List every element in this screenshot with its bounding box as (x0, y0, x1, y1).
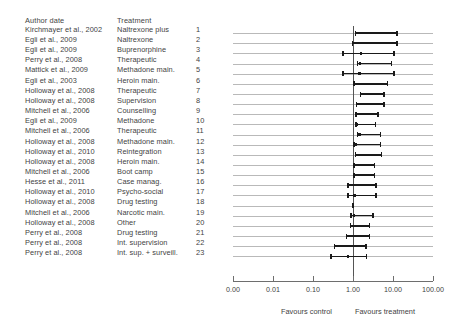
effect-estimate-point (359, 83, 362, 86)
row-index: 14 (196, 158, 208, 166)
row-treatment: Naltrexone (117, 36, 153, 44)
gridline (233, 53, 433, 54)
confidence-interval-cap (374, 173, 376, 178)
row-author: Holloway et al., 2008 (25, 219, 95, 227)
gridline (233, 175, 433, 176)
column-header-author: Author date (25, 16, 64, 25)
effect-estimate-point (353, 214, 356, 217)
axis-tick-label: 100.00 (422, 285, 444, 294)
row-author: Egli et al., 2009 (25, 46, 77, 54)
row-treatment: Other (117, 219, 136, 227)
gridline (233, 206, 433, 207)
row-index: 22 (196, 239, 208, 247)
effect-estimate-point (360, 93, 363, 96)
row-treatment: Therapeutic (117, 127, 157, 135)
gridline (233, 195, 433, 196)
confidence-interval-cap (375, 122, 377, 127)
row-author: Egli et al., 2003 (25, 77, 77, 85)
gridline (233, 104, 433, 105)
confidence-interval-cap (353, 81, 355, 86)
row-index: 9 (196, 107, 208, 115)
confidence-interval-cap (334, 244, 336, 249)
row-author: Egli et al., 2009 (25, 117, 77, 125)
gridline (233, 135, 433, 136)
row-treatment: Buprenorphine (117, 46, 166, 54)
confidence-interval-cap (380, 142, 382, 147)
axis-tick (393, 276, 394, 281)
gridline (233, 226, 433, 227)
row-index: 3 (196, 46, 208, 54)
confidence-interval-cap (342, 51, 344, 56)
effect-estimate-point (354, 184, 357, 187)
row-index: 7 (196, 87, 208, 95)
gridline (233, 94, 433, 95)
effect-estimate-point (356, 123, 359, 126)
row-treatment: Counselling (117, 107, 156, 115)
row-index: 2 (196, 36, 208, 44)
row-treatment: Heroin main. (117, 158, 160, 166)
gridline (233, 43, 433, 44)
effect-estimate-point (347, 255, 350, 258)
axis-tick-label: 0.10 (306, 285, 320, 294)
row-index: 8 (196, 97, 208, 105)
row-treatment: Supervision (117, 97, 156, 105)
row-author: Kirchmayer et al., 2002 (25, 26, 102, 34)
axis-tick-label: 0.00 (226, 285, 240, 294)
plot-area (233, 26, 433, 281)
row-index: 13 (196, 148, 208, 156)
effect-estimate-point (358, 72, 361, 75)
axis-tick (233, 276, 234, 281)
row-author: Mitchell et al., 2006 (25, 127, 90, 135)
confidence-interval-cap (381, 152, 383, 157)
effect-estimate-point (353, 194, 356, 197)
row-author: Mattick et al., 2009 (25, 66, 88, 74)
axis-tick (353, 276, 354, 281)
effect-estimate-point (360, 52, 363, 55)
row-treatment: Int. supervision (117, 239, 168, 247)
gridline (233, 185, 433, 186)
row-treatment: Methadone (117, 117, 154, 125)
confidence-interval-bar (334, 245, 367, 247)
row-index: 23 (196, 249, 208, 257)
confidence-interval-bar (353, 83, 388, 85)
axis-tick-label: 10.00 (384, 285, 402, 294)
row-treatment: Naltrexone plus (117, 26, 169, 34)
effect-estimate-point (358, 133, 361, 136)
effect-estimate-point (354, 174, 357, 177)
row-author: Hesse et al., 2011 (25, 178, 85, 186)
effect-estimate-point (350, 235, 353, 238)
row-treatment: Drug testing (117, 229, 157, 237)
row-author: Perry et al., 2008 (25, 229, 82, 237)
row-author: Perry et al., 2008 (25, 56, 82, 64)
row-author: Holloway et al., 2008 (25, 198, 95, 206)
row-index: 21 (196, 229, 208, 237)
confidence-interval-bar (356, 103, 385, 105)
gridline (233, 74, 433, 75)
row-author: Egli et al., 2009 (25, 36, 77, 44)
axis-tick (313, 276, 314, 281)
row-author: Holloway et al., 2010 (25, 148, 95, 156)
confidence-interval-cap (396, 31, 398, 36)
row-index: 15 (196, 168, 208, 176)
effect-estimate-point (355, 143, 358, 146)
effect-estimate-point (357, 103, 360, 106)
row-treatment: Psycho-social (117, 188, 163, 196)
effect-estimate-point (365, 42, 368, 45)
confidence-interval-cap (374, 163, 376, 168)
row-author: Holloway et al., 2008 (25, 158, 95, 166)
row-author: Mitchell et al., 2006 (25, 209, 90, 217)
row-index: 1 (196, 26, 208, 34)
effect-estimate-point (346, 245, 349, 248)
effect-estimate-point (355, 164, 358, 167)
confidence-interval-cap (391, 61, 393, 66)
confidence-interval-cap (375, 193, 377, 198)
gridline (233, 64, 433, 65)
axis-tick-label: 0.01 (266, 285, 280, 294)
row-treatment: Methadone main. (117, 66, 175, 74)
confidence-interval-cap (393, 51, 395, 56)
row-index: 4 (196, 56, 208, 64)
axis-tick-label: 1.00 (346, 285, 360, 294)
row-treatment: Narcotic main. (117, 209, 165, 217)
gridline (233, 124, 433, 125)
row-author: Holloway et al., 2010 (25, 188, 95, 196)
